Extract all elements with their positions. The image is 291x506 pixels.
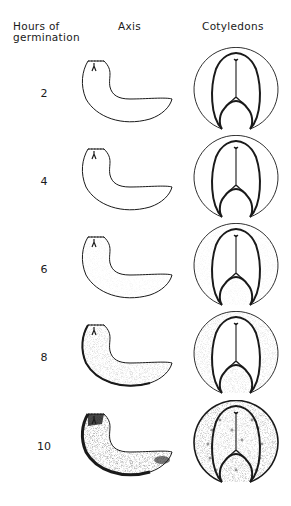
- axis-drawing: [74, 233, 176, 311]
- axis-drawing: [74, 145, 176, 223]
- axis-drawing: [74, 57, 176, 135]
- hours-label: 8: [29, 351, 59, 364]
- hours-label: 4: [29, 175, 59, 188]
- header-hours-of-germination: Hours of germination: [13, 21, 80, 43]
- header-cotyledons: Cotyledons: [202, 21, 264, 32]
- axis-drawing: [74, 321, 176, 399]
- cotyledon-drawing: [192, 47, 280, 141]
- cotyledon-drawing: [192, 135, 280, 229]
- hours-label: 6: [29, 263, 59, 276]
- hours-label: 10: [29, 440, 59, 453]
- header-hours-line2: germination: [13, 32, 80, 43]
- axis-drawing: [74, 410, 176, 488]
- cotyledon-drawing: [192, 311, 280, 405]
- header-axis: Axis: [118, 21, 141, 32]
- hours-label: 2: [29, 87, 59, 100]
- cotyledon-drawing: [192, 400, 280, 494]
- cotyledon-drawing: [192, 223, 280, 317]
